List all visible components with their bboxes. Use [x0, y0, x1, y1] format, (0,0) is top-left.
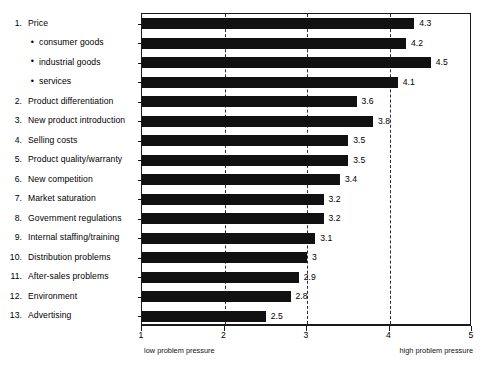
category-label-text: consumer goods	[39, 37, 104, 47]
category-number: 13.	[0, 310, 28, 320]
category-number: 4.	[0, 135, 28, 145]
y-axis-tick	[138, 43, 143, 44]
category-label-text: Internal staffing/training	[28, 232, 119, 242]
bar-value-label: 4.5	[436, 57, 448, 68]
bar	[142, 155, 348, 166]
category-label: 13.Advertising	[0, 303, 140, 327]
x-axis-tick-label: 5	[469, 330, 474, 340]
category-label-column: 1.Price•consumer goods•industrial goods•…	[0, 13, 140, 325]
y-axis-tick	[138, 199, 143, 200]
y-axis-tick	[138, 24, 143, 25]
bar-value-label: 2.8	[296, 291, 308, 302]
category-label-text: Market saturation	[28, 193, 96, 203]
bar	[142, 38, 406, 49]
bar	[142, 96, 357, 107]
y-axis-tick	[138, 219, 143, 220]
bar-value-label: 4.3	[419, 18, 431, 29]
category-number: 11.	[0, 271, 28, 281]
category-label-text: Government regulations	[28, 213, 122, 223]
category-label-text: Product quality/warranty	[28, 154, 122, 164]
bar	[142, 77, 398, 88]
bar-value-label: 3.4	[345, 174, 357, 185]
y-axis-tick	[138, 316, 143, 317]
category-label-text: Distribution problems	[28, 252, 111, 262]
category-number: 9.	[0, 232, 28, 242]
category-number: 2.	[0, 96, 28, 106]
bar-value-label: 2.5	[271, 311, 283, 322]
bar-value-label: 3.2	[329, 194, 341, 205]
y-axis-tick	[138, 180, 143, 181]
bar	[142, 135, 348, 146]
y-axis-tick	[138, 160, 143, 161]
bar	[142, 311, 266, 322]
bar-value-label: 3.1	[320, 233, 332, 244]
category-number: 12.	[0, 291, 28, 301]
bar-value-label: 3.5	[353, 135, 365, 146]
bullet-icon: •	[0, 77, 39, 86]
bar-value-label: 4.2	[411, 38, 423, 49]
y-axis-tick	[138, 297, 143, 298]
x-axis-line	[141, 325, 471, 326]
bar-value-label: 4.1	[403, 77, 415, 88]
y-axis-tick	[138, 238, 143, 239]
y-axis-tick	[138, 102, 143, 103]
bar	[142, 252, 307, 263]
category-label-text: Environment	[28, 291, 77, 301]
bar	[142, 174, 340, 185]
horizontal-bar-chart: 1.Price•consumer goods•industrial goods•…	[0, 0, 489, 365]
category-number: 6.	[0, 174, 28, 184]
bar-value-label: 3.6	[362, 96, 374, 107]
bar-value-label: 3.5	[353, 155, 365, 166]
category-label-text: Selling costs	[28, 135, 77, 145]
bar-value-label: 3.2	[329, 213, 341, 224]
y-axis-tick	[138, 121, 143, 122]
category-number: 5.	[0, 154, 28, 164]
scan-artifact-top	[0, 0, 489, 7]
axis-caption-high: high problem pressure	[399, 346, 473, 355]
category-label-text: After-sales problems	[28, 271, 109, 281]
bullet-icon: •	[0, 57, 39, 66]
bar-value-label: 3.8	[378, 116, 390, 127]
category-label-text: Advertising	[28, 310, 71, 320]
category-label-text: services	[39, 76, 71, 86]
y-axis-tick	[138, 277, 143, 278]
bar	[142, 57, 431, 68]
category-number: 3.	[0, 115, 28, 125]
x-axis-tick-label: 3	[304, 330, 309, 340]
bar	[142, 213, 324, 224]
x-axis-tick-label: 1	[139, 330, 144, 340]
y-axis-tick	[138, 63, 143, 64]
y-axis-tick	[138, 141, 143, 142]
bar	[142, 291, 291, 302]
bar-value-label: 2.9	[304, 272, 316, 283]
axis-caption-low: low problem pressure	[144, 346, 215, 355]
bar	[142, 194, 324, 205]
bar	[142, 272, 299, 283]
bar-value-label: 3	[312, 252, 317, 263]
category-number: 7.	[0, 193, 28, 203]
category-number: 10.	[0, 252, 28, 262]
y-axis-tick	[138, 258, 143, 259]
category-label-text: New competition	[28, 174, 93, 184]
category-number: 1.	[0, 18, 28, 28]
category-label-text: Price	[28, 18, 48, 28]
category-number: 8.	[0, 213, 28, 223]
category-label-text: industrial goods	[39, 57, 101, 67]
bar	[142, 116, 373, 127]
bar	[142, 18, 414, 29]
category-label-text: New product introduction	[28, 115, 125, 125]
y-axis-tick	[138, 82, 143, 83]
bullet-icon: •	[0, 38, 39, 47]
plot-area: 4.34.24.54.13.63.83.53.53.43.23.23.132.9…	[141, 13, 471, 325]
category-label-text: Product differentiation	[28, 96, 113, 106]
x-axis-tick-label: 4	[386, 330, 391, 340]
x-axis-tick-label: 2	[221, 330, 226, 340]
bar	[142, 233, 315, 244]
